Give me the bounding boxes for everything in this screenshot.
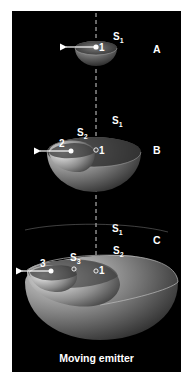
point-2-label-b: 2 (59, 138, 65, 149)
panel-label-c: C (153, 234, 161, 246)
point-1-label-c: 1 (99, 265, 105, 276)
panel-b: 2 1 S2 S1 B (40, 115, 161, 192)
s1-label-b: S1 (112, 115, 123, 128)
point-3-label-c: 3 (40, 258, 46, 269)
panel-c: 3 1 S3 S2 S1 C (22, 223, 178, 340)
emitter-dot-a (93, 44, 98, 49)
emitter-dot-b (69, 149, 74, 154)
point-1-label-a: 1 (99, 42, 105, 53)
panel-a: 1 S1 A (66, 31, 161, 66)
moving-emitter-diagram: 1 S1 A 2 1 S2 S1 B 3 1 S3 S2 S1 C (0, 0, 191, 378)
emitter-dot-c (49, 269, 54, 274)
figure-caption: Moving emitter (12, 352, 181, 364)
s1-label-a: S1 (113, 31, 124, 44)
panel-label-b: B (153, 144, 161, 156)
panel-label-a: A (153, 43, 161, 55)
point-1-label-b: 1 (99, 145, 105, 156)
